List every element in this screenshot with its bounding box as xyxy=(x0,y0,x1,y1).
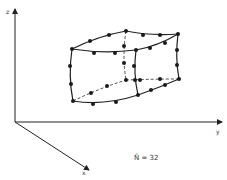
z-axis-label: z xyxy=(6,8,9,15)
node xyxy=(175,48,179,52)
node xyxy=(122,44,126,48)
node xyxy=(148,46,152,50)
edge-top-left xyxy=(72,31,126,49)
node xyxy=(177,77,181,81)
node xyxy=(163,83,167,87)
x-axis-label: x xyxy=(82,169,86,176)
edge-bottom-right xyxy=(138,79,179,95)
node xyxy=(114,100,118,104)
node xyxy=(136,93,140,97)
node xyxy=(69,82,73,86)
node xyxy=(68,64,72,68)
node xyxy=(158,33,162,37)
node xyxy=(124,29,128,33)
node xyxy=(158,77,162,81)
node xyxy=(92,51,96,55)
node xyxy=(70,47,74,51)
node xyxy=(91,102,95,106)
edge-back-right-vertical xyxy=(177,34,179,79)
edge-top-front xyxy=(72,49,136,52)
node xyxy=(107,33,111,37)
edge-top-back xyxy=(126,31,178,35)
edge-front-left-vertical xyxy=(70,49,73,101)
node xyxy=(105,84,109,88)
node-count-label: N̄ = 32 xyxy=(134,153,158,162)
node xyxy=(175,63,179,67)
node xyxy=(141,33,145,37)
node xyxy=(149,88,153,92)
node xyxy=(122,61,126,65)
node xyxy=(71,99,75,103)
x-axis xyxy=(15,122,89,170)
node xyxy=(113,51,117,55)
node xyxy=(176,32,180,36)
node xyxy=(133,78,137,82)
edge-front-right-vertical xyxy=(135,50,138,95)
node xyxy=(134,48,138,52)
node xyxy=(89,91,93,95)
axes xyxy=(15,9,222,170)
hidden-edge-bottom-left xyxy=(73,80,126,101)
node xyxy=(124,78,128,82)
element-diagram: z y x xyxy=(0,0,227,180)
hidden-edge-back-vertical xyxy=(124,31,126,80)
node xyxy=(138,78,142,82)
node xyxy=(163,41,167,45)
y-axis-label: y xyxy=(216,128,220,136)
node xyxy=(88,39,92,43)
node xyxy=(132,64,136,68)
